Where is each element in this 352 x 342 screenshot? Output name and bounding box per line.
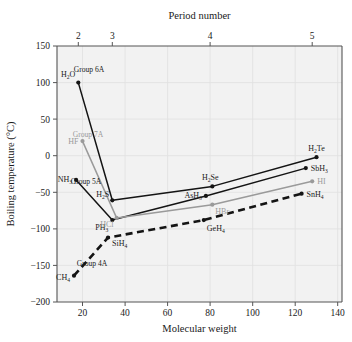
- period-tick-label: 5: [310, 31, 315, 41]
- period-tick-label: 2: [76, 31, 81, 41]
- y-tick-label: −200: [30, 297, 50, 307]
- x-tick-label: 60: [163, 308, 173, 318]
- data-point-H2Se: [210, 184, 214, 188]
- x-tick-label: 80: [205, 308, 215, 318]
- y-tick-label: −150: [30, 261, 50, 271]
- data-point-H2O: [76, 81, 80, 85]
- group-annotation-group-4a: Group 4A: [77, 259, 108, 268]
- chart-figure: 150100500−50−100−150−200 204060801001201…: [0, 0, 352, 342]
- top-axis-period: 2345: [76, 31, 315, 46]
- data-point-SnH4: [300, 192, 304, 196]
- data-point-SiH4: [106, 236, 110, 240]
- y-tick-label: 50: [41, 115, 51, 125]
- x-axis: 20406080100120140: [78, 302, 345, 318]
- y-axis-title: Boiling temperature (°C): [5, 121, 17, 227]
- period-tick-label: 4: [208, 31, 213, 41]
- group-annotation-group-6a: Group 6A: [74, 65, 105, 74]
- data-point-H2Te: [314, 155, 318, 159]
- point-label-H2Te: H2Te: [308, 144, 325, 154]
- group-annotation-group-7a: Group 7A: [73, 130, 104, 139]
- boiling-point-plot: 150100500−50−100−150−200 204060801001201…: [0, 0, 352, 342]
- point-label-H2Se: H2Se: [202, 173, 219, 183]
- y-tick-label: −100: [30, 224, 50, 234]
- group-annotation-group-5a: Group 5A: [71, 177, 102, 186]
- x-tick-label: 40: [120, 308, 130, 318]
- y-tick-label: 100: [36, 78, 51, 88]
- x-tick-label: 120: [288, 308, 303, 318]
- x-tick-label: 20: [78, 308, 88, 318]
- data-point-HBr: [210, 203, 214, 207]
- point-label-HI: HI: [317, 177, 326, 186]
- point-label-HCl: HCl: [100, 220, 114, 229]
- y-tick-label: −50: [35, 188, 50, 198]
- x-axis-title: Molecular weight: [162, 323, 236, 334]
- data-point-HCl: [115, 216, 119, 220]
- data-point-SbH3: [304, 166, 308, 170]
- y-tick-label: 150: [36, 41, 51, 51]
- y-axis: 150100500−50−100−150−200: [30, 41, 57, 307]
- data-point-AsH3: [204, 194, 208, 198]
- x-tick-label: 140: [331, 308, 346, 318]
- top-axis-title: Period number: [168, 10, 231, 21]
- period-tick-label: 3: [110, 31, 115, 41]
- x-tick-label: 100: [246, 308, 261, 318]
- y-tick-label: 0: [45, 151, 50, 161]
- data-point-HF: [80, 139, 84, 143]
- data-point-HI: [310, 179, 314, 183]
- data-point-H2S: [110, 198, 114, 202]
- data-point-CH4: [72, 274, 76, 278]
- data-point-GeH4: [202, 218, 206, 222]
- point-label-HBr: HBr: [215, 207, 229, 216]
